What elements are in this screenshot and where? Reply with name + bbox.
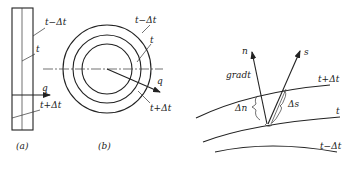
- label-s: s: [304, 47, 309, 57]
- label-delta-s: Δs: [287, 99, 299, 109]
- label-c-t-minus: t−Δt: [320, 141, 342, 151]
- normal-n-arrow: [252, 52, 267, 124]
- label-grad: gradt: [226, 70, 251, 80]
- delta-n-brace: [252, 96, 260, 120]
- label-b-t-minus: t−Δt: [135, 15, 157, 25]
- label-a-t-plus: t+Δt: [40, 100, 62, 110]
- label-a-t-minus: t−Δt: [45, 17, 67, 27]
- leader-b-t-minus: [142, 25, 150, 33]
- isotherm-t-plus: [196, 85, 330, 118]
- leader-t-plus: [12, 110, 40, 118]
- isotherm-t-minus: [215, 146, 337, 152]
- leader-b-t: [137, 44, 151, 62]
- panel-c-gradient: [196, 51, 340, 152]
- diagram-canvas: t−Δt t q t+Δt (a) t−Δt t q t+Δt (b) n: [0, 0, 349, 169]
- wall-rectangle: [12, 8, 33, 130]
- leader-t-minus: [33, 28, 45, 36]
- label-c-t-plus: t+Δt: [318, 74, 340, 84]
- label-a-q: q: [42, 83, 48, 93]
- label-c-t: t: [336, 106, 340, 116]
- direction-s-arrow: [268, 51, 300, 124]
- isotherm-t: [203, 117, 340, 142]
- label-n: n: [242, 46, 248, 56]
- caption-a: (a): [16, 141, 29, 151]
- radial-heat-flux-arrow: [107, 69, 160, 92]
- label-a-t: t: [36, 44, 40, 54]
- label-b-t-plus: t+Δt: [150, 103, 172, 113]
- delta-s-bracket-line: [271, 89, 286, 124]
- caption-b: (b): [98, 141, 111, 151]
- label-b-q: q: [157, 76, 163, 86]
- label-b-t: t: [150, 35, 154, 45]
- label-delta-n: Δn: [234, 103, 247, 113]
